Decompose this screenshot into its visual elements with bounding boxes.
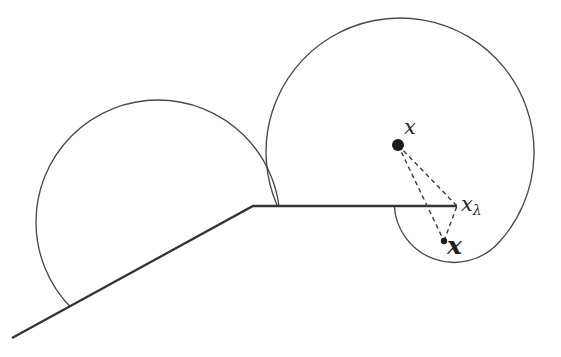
- label-projection: x: [446, 231, 463, 260]
- left-circle-arc: [36, 100, 280, 344]
- point-x-dot: [392, 139, 404, 151]
- label-x-lambda: xλ: [461, 192, 482, 218]
- dashed-line-x-to-xlambda: [398, 145, 457, 206]
- label-x-lambda-sub: λ: [472, 202, 482, 218]
- figure-canvas: x xλ x: [0, 0, 561, 357]
- label-x: x: [404, 115, 416, 139]
- dashed-line-x-to-projection: [398, 145, 444, 241]
- label-x-lambda-base: x: [461, 192, 473, 216]
- math-figure: x xλ x: [0, 0, 561, 357]
- set-boundary-line: [12, 206, 457, 338]
